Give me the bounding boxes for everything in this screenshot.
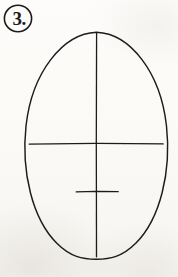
step-number-badge: 3. — [3, 4, 33, 33]
drawing-page: 3. — [0, 0, 178, 277]
face-construction-diagram — [0, 0, 178, 277]
nose-line — [76, 191, 118, 192]
step-number-label: 3. — [12, 9, 25, 28]
eye-line — [29, 143, 163, 144]
